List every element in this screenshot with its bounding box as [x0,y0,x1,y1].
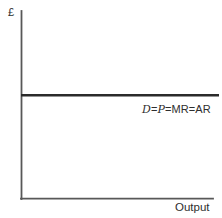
demand-label-mr: MR [172,103,189,115]
y-axis-label: £ [8,7,14,18]
x-axis-label: Output [175,202,210,214]
demand-label-p: P [157,103,165,116]
chart-figure: £ Output D=P=MR=AR [0,0,222,218]
demand-curve-label: D=P=MR=AR [142,104,211,115]
demand-label-ar: AR [195,103,210,115]
demand-label-d: D [142,103,151,116]
